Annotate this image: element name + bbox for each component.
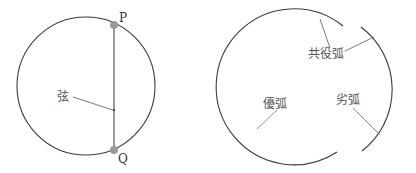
point-q-label: Q	[118, 152, 128, 166]
minor-arc-label: 劣弧	[336, 93, 360, 107]
conjugate-leader-1	[320, 19, 330, 48]
chord-leader-line	[73, 97, 113, 110]
major-arc	[216, 9, 343, 165]
major-arc-label: 優弧	[263, 97, 287, 111]
major-arc-leader	[257, 110, 277, 129]
diagram-canvas: P Q 弦 共役弧 優弧 劣弧	[0, 0, 416, 173]
chord-diagram: P Q 弦	[17, 11, 155, 166]
point-q	[110, 146, 118, 154]
minor-arc-leader	[353, 108, 380, 135]
arc-diagram: 共役弧 優弧 劣弧	[216, 9, 392, 165]
chord-label: 弦	[57, 89, 69, 104]
point-p	[110, 21, 118, 29]
conjugate-arc-label: 共役弧	[308, 46, 344, 61]
conjugate-leader-2	[345, 37, 374, 51]
left-circle	[17, 17, 155, 155]
minor-arc	[361, 27, 392, 151]
point-p-label: P	[119, 11, 127, 25]
chord-leader-dot	[113, 109, 115, 111]
